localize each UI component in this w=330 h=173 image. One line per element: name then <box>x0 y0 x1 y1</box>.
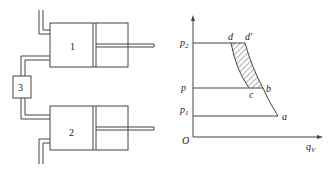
p-label: p <box>180 82 186 93</box>
point-b-label: b <box>266 83 271 94</box>
point-a-label: a <box>282 111 287 122</box>
cylinder-2 <box>50 106 128 150</box>
cylinder-1-label: 1 <box>70 41 75 52</box>
point-c-label: c <box>249 89 254 100</box>
p2-label: p2 <box>179 37 189 50</box>
compressor-schematic <box>13 10 154 164</box>
two-stage-compressor-diagram: 1 2 3 p2 p p1 O qV d d′ b c a <box>0 0 330 173</box>
point-d-label: d <box>228 31 234 42</box>
p-qv-chart <box>191 15 323 139</box>
x-axis-label: qV <box>306 141 316 154</box>
p1-label: p1 <box>179 104 189 117</box>
origin-label: O <box>182 135 189 146</box>
cylinder-2-label: 2 <box>69 127 74 138</box>
cooler-3-label: 3 <box>18 82 23 93</box>
cylinder-1 <box>50 23 128 67</box>
point-d-prime-label: d′ <box>245 31 253 42</box>
